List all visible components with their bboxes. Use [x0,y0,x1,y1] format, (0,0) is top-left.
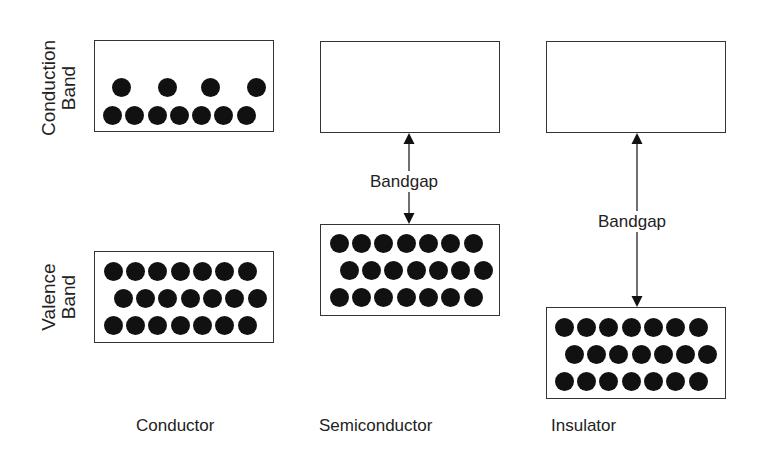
semiconductor-bandgap-label: Bandgap [369,171,439,192]
conductor-label: Conductor [136,417,214,434]
semiconductor-label: Semiconductor [319,417,432,434]
insulator-label: Insulator [551,417,616,434]
insulator-bandgap-label: Bandgap [597,211,667,232]
